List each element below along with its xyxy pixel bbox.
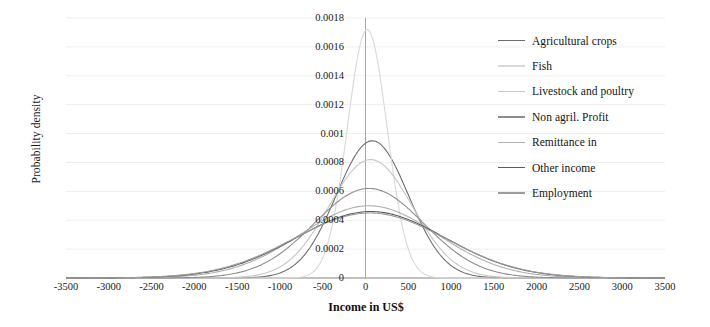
legend-label: Other income [532,162,596,174]
y-axis-label: Probability density [30,94,42,183]
x-tick-label: 2000 [526,282,547,293]
x-tick-label: -2500 [139,282,164,293]
y-tick-label: 0.0012 [315,99,344,110]
legend-label: Non agril. Profit [532,111,609,123]
legend-item[interactable]: Employment [498,180,703,205]
y-tick-label: 0.0014 [315,71,344,82]
legend-item[interactable]: Other income [498,155,703,180]
legend-line-icon [498,167,525,168]
x-tick-label: -500 [313,282,332,293]
x-tick-label: -2000 [182,282,207,293]
legend-line-icon [498,192,525,193]
x-tick-label: 2500 [569,282,590,293]
x-tick-label: 1000 [441,282,462,293]
x-tick-label: 3000 [612,282,633,293]
x-tick-label: 3500 [655,282,676,293]
x-tick-label: 0 [363,282,368,293]
x-tick-label: -3000 [97,282,122,293]
x-tick-label: -1500 [225,282,250,293]
legend-item[interactable]: Remittance in [498,130,703,155]
legend-item[interactable]: Non agril. Profit [498,104,703,129]
y-axis-ticks: 00.00020.00040.00060.00080.0010.00120.00… [292,0,344,327]
x-axis-label: Income in US$ [66,300,666,315]
x-tick-label: -1000 [268,282,293,293]
legend-label: Livestock and poultry [532,85,634,97]
legend-line-icon [498,65,525,66]
legend-item[interactable]: Fish [498,53,703,78]
legend-label: Agricultural crops [532,35,617,47]
legend-line-icon [498,142,525,143]
y-tick-label: 0.0008 [315,157,344,168]
legend-line-icon [498,116,525,117]
y-tick-label: 0.0018 [315,13,344,24]
y-tick-label: 0.0006 [315,186,344,197]
y-tick-label: 0.0004 [315,215,344,226]
chart-figure: Probability density 00.00020.00040.00060… [0,0,710,327]
legend-item[interactable]: Livestock and poultry [498,79,703,104]
x-tick-label: -3500 [54,282,79,293]
x-tick-label: 1500 [483,282,504,293]
chart-legend: Agricultural cropsFishLivestock and poul… [498,28,703,206]
legend-line-icon [498,91,525,92]
legend-label: Fish [532,60,552,72]
y-tick-label: 0.0002 [315,244,344,255]
y-tick-label: 0.0016 [315,42,344,53]
legend-label: Employment [532,187,592,199]
legend-item[interactable]: Agricultural crops [498,28,703,53]
y-axis-label-container: Probability density [24,0,48,278]
legend-label: Remittance in [532,136,597,148]
legend-line-icon [498,40,525,41]
y-tick-label: 0 [339,273,344,284]
y-tick-label: 0.001 [320,128,344,139]
x-tick-label: 500 [400,282,416,293]
